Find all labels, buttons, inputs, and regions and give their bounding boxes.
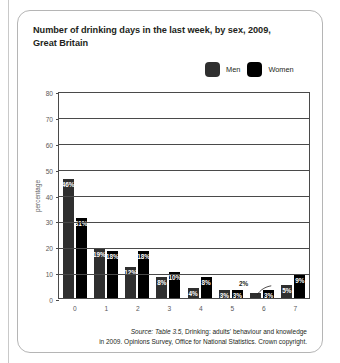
legend-label-men: Men: [226, 65, 240, 74]
gridline: [59, 144, 309, 145]
page-title: Number of drinking days in the last week…: [33, 24, 283, 49]
y-tick-label: 0: [33, 297, 53, 304]
bar-men-7[interactable]: 5%: [281, 285, 292, 298]
y-tick-label: 10: [33, 271, 53, 278]
plot-area: 46%31%19%18%12%18%8%10%4%8%3%3%2%3%5%9% …: [58, 92, 310, 299]
bar-value-label: 4%: [189, 290, 198, 297]
bar-men-5[interactable]: 3%: [219, 290, 230, 298]
bar-women-7[interactable]: 9%: [294, 275, 305, 298]
y-tick-mark: [56, 274, 59, 275]
y-tick-mark: [56, 145, 59, 146]
legend-swatch-icon: [205, 62, 220, 77]
y-tick-mark: [56, 93, 59, 94]
y-tick-label: 70: [33, 115, 53, 122]
bar-men-3[interactable]: 8%: [156, 277, 167, 298]
y-tick-mark: [56, 171, 59, 172]
bar-value-label: 12%: [124, 269, 137, 276]
source-italic-lead: Source: Table 3.5,: [131, 328, 184, 335]
gridline: [59, 222, 309, 223]
source-line1-rest: Drinking: adults' behaviour and knowledg…: [183, 328, 307, 335]
x-tick-label-4: 4: [199, 305, 203, 312]
bar-value-label: 9%: [295, 277, 304, 284]
y-tick-mark: [56, 197, 59, 198]
x-tick-label-0: 0: [73, 305, 77, 312]
bar-value-label: 3%: [220, 292, 229, 299]
bar-value-label: 18%: [137, 253, 150, 260]
source-line2: in 2009. Opinions Survey, Office for Nat…: [99, 338, 307, 345]
bar-value-label: 5%: [282, 287, 291, 294]
bar-women-6[interactable]: 3%: [263, 290, 274, 298]
bar-women-1[interactable]: 18%: [107, 251, 118, 298]
bar-women-4[interactable]: 8%: [201, 277, 212, 298]
x-tick-label-7: 7: [293, 305, 297, 312]
x-tick-label-6: 6: [262, 305, 266, 312]
bar-fill: [250, 293, 261, 298]
gridline: [59, 118, 309, 119]
gridline: [59, 274, 309, 275]
bar-value-label: 46%: [62, 181, 75, 188]
bar-value-label: 2%: [239, 280, 248, 287]
y-tick-mark: [56, 119, 59, 120]
bar-value-label: 8%: [202, 279, 211, 286]
y-tick-label: 60: [33, 141, 53, 148]
y-tick-label: 30: [33, 219, 53, 226]
bar-women-5[interactable]: 3%: [232, 290, 243, 298]
y-tick-label: 80: [33, 90, 53, 97]
bar-men-4[interactable]: 4%: [188, 288, 199, 298]
bar-value-label: 8%: [157, 279, 166, 286]
y-tick-label: 50: [33, 167, 53, 174]
x-tick-label-1: 1: [104, 305, 108, 312]
source-note: Source: Table 3.5, Drinking: adults' beh…: [33, 327, 307, 346]
bar-value-label: 31%: [75, 220, 88, 227]
gridline: [59, 196, 309, 197]
y-tick-mark: [56, 300, 59, 301]
bar-men-2[interactable]: 12%: [125, 267, 136, 298]
bar-value-label: 18%: [106, 253, 119, 260]
bar-fill: [76, 218, 87, 298]
bar-value-label: 19%: [93, 251, 106, 258]
legend-swatch-icon: [247, 62, 262, 77]
gridline: [59, 170, 309, 171]
y-tick-label: 20: [33, 245, 53, 252]
y-tick-mark: [56, 222, 59, 223]
bar-women-2[interactable]: 18%: [138, 251, 149, 298]
bar-women-3[interactable]: 10%: [169, 272, 180, 298]
bar-women-0[interactable]: 31%: [76, 218, 87, 298]
legend-item-women: Women: [247, 62, 293, 77]
legend-label-women: Women: [268, 65, 293, 74]
gridline: [59, 248, 309, 249]
legend-item-men: Men: [205, 62, 240, 77]
y-tick-label: 40: [33, 193, 53, 200]
x-tick-label-3: 3: [167, 305, 171, 312]
bar-value-label: 3%: [264, 292, 273, 299]
bar-value-label: 3%: [233, 292, 242, 299]
page-edge-line: [8, 0, 9, 363]
bar-value-label: 10%: [168, 274, 181, 281]
x-tick-label-2: 2: [136, 305, 140, 312]
y-tick-mark: [56, 248, 59, 249]
x-tick-label-5: 5: [230, 305, 234, 312]
chart-legend: MenWomen: [205, 62, 294, 77]
bar-men-6[interactable]: 2%: [250, 293, 261, 298]
